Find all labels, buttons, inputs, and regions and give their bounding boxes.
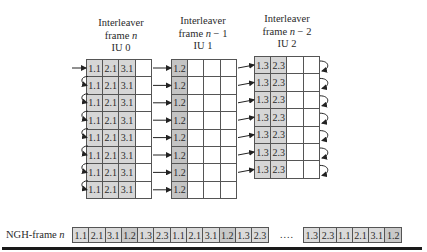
ngh-cell: 3.1 [203,228,219,243]
ngh-cell: 2.1 [89,228,105,243]
ngh-cell: 1.2 [121,228,137,243]
ngh-cell: 2.1 [352,228,368,243]
flow-arrows [0,0,427,252]
ngh-frame-cells-group1: 1.12.13.11.21.32.31.12.13.11.21.32.3 [72,227,269,243]
ngh-cell: 1.1 [336,228,352,243]
ngh-cell: 1.2 [219,228,235,243]
ngh-cell: 1.2 [385,228,401,243]
ngh-ellipsis: .... [280,229,294,240]
ngh-cell: 1.3 [138,228,154,243]
bottom-rule [2,247,422,250]
ngh-frame-cells-group2: 1.32.31.12.13.11.2 [303,227,402,243]
ngh-frame-label: NGH-frame n [6,229,65,240]
ngh-cell: 1.1 [170,228,186,243]
ngh-cell: 2.3 [320,228,336,243]
ngh-cell: 1.1 [73,228,89,243]
ngh-cell: 1.3 [304,228,320,243]
ngh-cell: 2.1 [187,228,203,243]
ngh-cell: 1.3 [235,228,251,243]
ngh-cell: 3.1 [369,228,385,243]
ngh-cell: 2.3 [154,228,170,243]
ngh-cell: 3.1 [105,228,121,243]
ngh-cell: 2.3 [252,228,268,243]
